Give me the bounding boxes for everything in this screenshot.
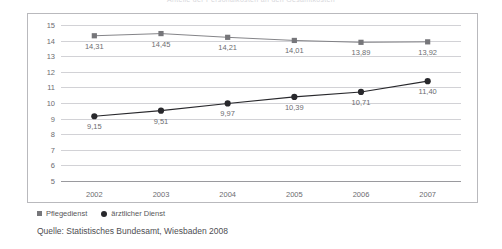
plot-area: 15141312111098765 2002200320042005200620…	[61, 25, 461, 181]
data-point-label: 14,01	[285, 46, 304, 55]
data-point-label: 11,40	[419, 87, 437, 96]
y-tick-label: 12	[47, 67, 55, 76]
x-tick-label: 2005	[286, 190, 303, 199]
series-plot	[61, 25, 461, 181]
y-tick-label: 7	[51, 145, 55, 154]
y-tick-label: 15	[47, 21, 55, 30]
y-tick-label: 10	[47, 99, 55, 108]
legend-square-icon	[37, 211, 42, 216]
x-tick-label: 2003	[153, 190, 170, 199]
data-point-label: 9,15	[87, 122, 102, 131]
x-tick-label: 2004	[219, 190, 236, 199]
legend-item[interactable]: Pflegedienst	[37, 209, 87, 218]
data-point-marker	[92, 33, 97, 38]
data-point-label: 14,45	[152, 40, 171, 49]
y-tick-label: 13	[47, 52, 55, 61]
x-tick-label: 2006	[353, 190, 370, 199]
legend-label: ärztlicher Dienst	[111, 209, 165, 218]
x-tick-label: 2002	[86, 190, 103, 199]
y-tick-label: 14	[47, 36, 55, 45]
y-tick-label: 6	[51, 161, 55, 170]
data-point-marker	[91, 113, 97, 119]
data-point-marker	[425, 78, 431, 84]
gridline-5	[61, 181, 461, 182]
y-tick-label: 5	[51, 177, 55, 186]
data-point-marker	[425, 39, 430, 44]
legend-circle-icon	[101, 211, 107, 217]
series-line-1	[94, 81, 427, 116]
data-point-marker	[225, 35, 230, 40]
data-point-label: 13,92	[418, 48, 437, 57]
legend-item[interactable]: ärztlicher Dienst	[101, 209, 165, 218]
source-note: Quelle: Statistisches Bundesamt, Wiesbad…	[37, 226, 228, 236]
y-tick-label: 8	[51, 130, 55, 139]
legend-label: Pflegedienst	[46, 209, 87, 218]
data-point-label: 10,39	[285, 103, 304, 112]
y-tick-label: 9	[51, 114, 55, 123]
data-point-label: 14,31	[85, 42, 104, 51]
chart-frame: 15141312111098765 2002200320042005200620…	[27, 13, 478, 203]
data-point-label: 9,51	[154, 117, 169, 126]
data-point-marker	[292, 38, 297, 43]
data-point-marker	[225, 100, 231, 106]
data-point-marker	[158, 31, 163, 36]
y-tick-label: 11	[47, 83, 55, 92]
data-point-label: 9,97	[220, 109, 235, 118]
data-point-marker	[291, 94, 297, 100]
chart-title: Anteile der Personalkosten an den Gesamt…	[0, 0, 502, 4]
series-line-0	[94, 34, 427, 43]
data-point-marker	[358, 89, 364, 95]
x-tick-label: 2007	[419, 190, 436, 199]
data-point-label: 14,21	[218, 43, 237, 52]
data-point-label: 13,89	[352, 48, 371, 57]
data-point-label: 10,71	[352, 98, 371, 107]
data-point-marker	[358, 40, 363, 45]
data-point-marker	[158, 108, 164, 114]
chart-legend: Pflegedienstärztlicher Dienst	[37, 209, 165, 218]
